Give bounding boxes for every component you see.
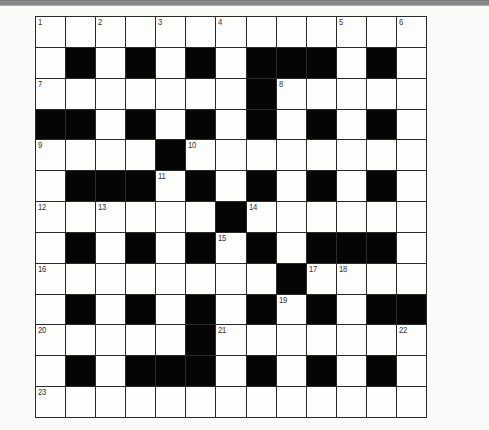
crossword-cell[interactable]: 18 bbox=[337, 264, 366, 294]
crossword-cell[interactable] bbox=[247, 17, 276, 47]
crossword-cell[interactable] bbox=[66, 79, 95, 109]
crossword-cell[interactable] bbox=[216, 387, 245, 417]
crossword-cell[interactable]: 3 bbox=[156, 17, 185, 47]
crossword-cell[interactable] bbox=[36, 233, 65, 263]
crossword-cell[interactable] bbox=[96, 264, 125, 294]
crossword-cell[interactable]: 5 bbox=[337, 17, 366, 47]
crossword-cell[interactable] bbox=[186, 387, 215, 417]
crossword-cell[interactable] bbox=[96, 110, 125, 140]
crossword-cell[interactable] bbox=[337, 79, 366, 109]
crossword-cell[interactable] bbox=[307, 202, 336, 232]
crossword-cell[interactable] bbox=[277, 356, 306, 386]
crossword-cell[interactable]: 7 bbox=[36, 79, 65, 109]
crossword-cell[interactable] bbox=[96, 387, 125, 417]
crossword-cell[interactable] bbox=[367, 387, 396, 417]
crossword-cell[interactable]: 21 bbox=[216, 325, 245, 355]
crossword-cell[interactable] bbox=[337, 325, 366, 355]
crossword-cell[interactable] bbox=[337, 48, 366, 78]
crossword-cell[interactable] bbox=[367, 202, 396, 232]
crossword-cell[interactable] bbox=[96, 48, 125, 78]
crossword-cell[interactable] bbox=[126, 17, 155, 47]
crossword-cell[interactable] bbox=[36, 171, 65, 201]
crossword-cell[interactable] bbox=[247, 264, 276, 294]
crossword-cell[interactable] bbox=[96, 295, 125, 325]
crossword-cell[interactable] bbox=[66, 264, 95, 294]
crossword-cell[interactable] bbox=[216, 140, 245, 170]
crossword-cell[interactable] bbox=[277, 171, 306, 201]
crossword-cell[interactable] bbox=[367, 140, 396, 170]
crossword-cell[interactable] bbox=[126, 264, 155, 294]
crossword-cell[interactable] bbox=[397, 79, 426, 109]
crossword-cell[interactable] bbox=[397, 110, 426, 140]
crossword-cell[interactable]: 22 bbox=[397, 325, 426, 355]
crossword-cell[interactable] bbox=[216, 171, 245, 201]
crossword-cell[interactable] bbox=[367, 325, 396, 355]
crossword-cell[interactable]: 2 bbox=[96, 17, 125, 47]
crossword-cell[interactable] bbox=[247, 325, 276, 355]
crossword-cell[interactable] bbox=[96, 140, 125, 170]
crossword-cell[interactable] bbox=[307, 140, 336, 170]
crossword-cell[interactable] bbox=[216, 48, 245, 78]
crossword-cell[interactable] bbox=[36, 48, 65, 78]
crossword-cell[interactable]: 4 bbox=[216, 17, 245, 47]
crossword-cell[interactable] bbox=[337, 387, 366, 417]
crossword-cell[interactable] bbox=[367, 17, 396, 47]
crossword-cell[interactable] bbox=[307, 79, 336, 109]
crossword-cell[interactable] bbox=[216, 295, 245, 325]
crossword-cell[interactable] bbox=[186, 17, 215, 47]
crossword-cell[interactable] bbox=[186, 79, 215, 109]
crossword-cell[interactable] bbox=[397, 171, 426, 201]
crossword-cell[interactable] bbox=[216, 110, 245, 140]
crossword-cell[interactable] bbox=[126, 325, 155, 355]
crossword-cell[interactable] bbox=[126, 140, 155, 170]
crossword-cell[interactable] bbox=[397, 264, 426, 294]
crossword-cell[interactable] bbox=[156, 79, 185, 109]
crossword-cell[interactable] bbox=[277, 387, 306, 417]
crossword-cell[interactable] bbox=[397, 233, 426, 263]
crossword-cell[interactable] bbox=[337, 171, 366, 201]
crossword-cell[interactable]: 20 bbox=[36, 325, 65, 355]
crossword-cell[interactable]: 6 bbox=[397, 17, 426, 47]
crossword-cell[interactable] bbox=[66, 325, 95, 355]
crossword-cell[interactable]: 15 bbox=[216, 233, 245, 263]
crossword-cell[interactable] bbox=[367, 79, 396, 109]
crossword-cell[interactable] bbox=[36, 356, 65, 386]
crossword-cell[interactable] bbox=[277, 110, 306, 140]
crossword-cell[interactable]: 17 bbox=[307, 264, 336, 294]
crossword-cell[interactable] bbox=[367, 264, 396, 294]
crossword-cell[interactable] bbox=[277, 202, 306, 232]
crossword-cell[interactable] bbox=[277, 233, 306, 263]
crossword-cell[interactable] bbox=[307, 325, 336, 355]
crossword-cell[interactable] bbox=[156, 325, 185, 355]
crossword-cell[interactable] bbox=[337, 295, 366, 325]
crossword-cell[interactable]: 16 bbox=[36, 264, 65, 294]
crossword-cell[interactable] bbox=[397, 140, 426, 170]
crossword-cell[interactable]: 13 bbox=[96, 202, 125, 232]
crossword-cell[interactable] bbox=[96, 233, 125, 263]
crossword-cell[interactable] bbox=[247, 140, 276, 170]
crossword-cell[interactable] bbox=[66, 17, 95, 47]
crossword-cell[interactable]: 1 bbox=[36, 17, 65, 47]
crossword-cell[interactable] bbox=[337, 110, 366, 140]
crossword-cell[interactable] bbox=[397, 48, 426, 78]
crossword-cell[interactable] bbox=[216, 356, 245, 386]
crossword-cell[interactable] bbox=[216, 264, 245, 294]
crossword-cell[interactable] bbox=[156, 295, 185, 325]
crossword-cell[interactable] bbox=[156, 48, 185, 78]
crossword-cell[interactable] bbox=[397, 387, 426, 417]
crossword-cell[interactable] bbox=[277, 140, 306, 170]
crossword-cell[interactable] bbox=[216, 79, 245, 109]
crossword-cell[interactable] bbox=[156, 110, 185, 140]
crossword-cell[interactable]: 11 bbox=[156, 171, 185, 201]
crossword-cell[interactable] bbox=[307, 17, 336, 47]
crossword-cell[interactable] bbox=[96, 356, 125, 386]
crossword-cell[interactable] bbox=[66, 140, 95, 170]
crossword-cell[interactable] bbox=[156, 202, 185, 232]
crossword-cell[interactable] bbox=[66, 387, 95, 417]
crossword-cell[interactable] bbox=[156, 233, 185, 263]
crossword-cell[interactable] bbox=[156, 264, 185, 294]
crossword-cell[interactable] bbox=[126, 387, 155, 417]
crossword-cell[interactable] bbox=[337, 356, 366, 386]
crossword-cell[interactable] bbox=[96, 79, 125, 109]
crossword-cell[interactable] bbox=[156, 387, 185, 417]
